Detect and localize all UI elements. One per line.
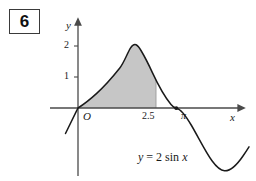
y-tick-label-2: 2 (64, 40, 69, 50)
x-tick-label-pi: π (181, 111, 186, 121)
y-axis-label: y (66, 20, 71, 31)
shaded-area-under-curve (78, 45, 156, 108)
pi-intersection-point (174, 106, 178, 110)
graph-figure (0, 0, 256, 181)
y-tick-label-1: 1 (64, 71, 69, 81)
equation-function: sin (165, 150, 179, 164)
x-tick-label-2point5: 2.5 (142, 111, 155, 121)
equation-variable: x (182, 150, 187, 164)
figure-page: 6 y x O 2 1 2.5 π (0, 0, 256, 181)
origin-label: O (83, 111, 91, 122)
x-axis-label: x (230, 112, 235, 123)
equation-caption: y = 2 sin x (138, 151, 187, 163)
